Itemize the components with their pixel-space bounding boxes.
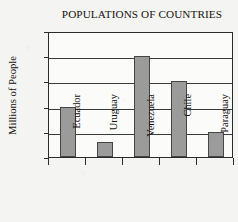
x-axis-tick-mark xyxy=(233,158,234,165)
x-axis-category-label: Uruguay xyxy=(108,94,119,168)
x-axis-tick-mark xyxy=(85,158,86,165)
x-axis-category-label: Paraguay xyxy=(219,94,230,168)
chart-title: POPULATIONS OF COUNTRIES xyxy=(46,8,238,21)
x-axis-category-label: Ecuador xyxy=(71,94,82,168)
y-axis-title: Millions of People xyxy=(7,32,18,160)
x-axis-tick-mark xyxy=(122,158,123,165)
x-axis-tick-mark xyxy=(159,158,160,165)
x-axis-tick-mark xyxy=(196,158,197,165)
x-axis-category-label: Venezuela xyxy=(145,94,156,168)
x-axis-tick-mark xyxy=(48,158,49,165)
bar-chart-figure: POPULATIONS OF COUNTRIES Millions of Peo… xyxy=(0,0,238,222)
x-axis-category-label: Chile xyxy=(182,94,193,168)
